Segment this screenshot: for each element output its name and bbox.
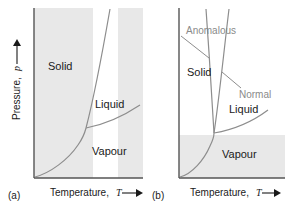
panel-a-x-axis-label-var: T [116,187,123,198]
panel-a-y-axis-label-text: Pressure, [11,77,22,120]
panel-b-annotation-anomalous: Anomalous [186,25,236,36]
phase-diagram-figure: Solid Liquid Vapour Pressure, p Temperat… [0,0,285,220]
panel-a-x-axis-label-text: Temperature, [50,187,109,198]
panel-a-label-liquid: Liquid [95,98,124,110]
panel-b-label-solid: Solid [187,66,211,78]
panel-a-y-axis-label: Pressure, p [11,39,22,120]
panel-a-label-vapour: Vapour [92,145,127,157]
panel-a-shade-left [34,8,93,178]
panel-b-tag: (b) [152,190,164,201]
panel-b-label-liquid: Liquid [229,103,258,115]
panel-a-x-axis-arrow-head [136,189,143,197]
panel-b-leader-anomalous [181,36,209,58]
panel-b-x-axis-label-var: T [256,187,263,198]
panel-a-y-axis-label-var: p [11,66,22,72]
phase-diagram-svg: Solid Liquid Vapour Pressure, p Temperat… [0,0,285,220]
panel-b-x-axis-label-text: Temperature, [190,187,249,198]
panel-a-y-axis-arrow-head [13,39,21,46]
panel-b-x-axis-arrow-head [274,189,281,197]
panel-a-tag: (a) [8,190,20,201]
panel-a-x-axis-label: Temperature, T [50,187,143,198]
panel-a-label-solid: Solid [48,60,72,72]
panel-b-annotation-normal: Normal [239,89,271,100]
panel-b: Anomalous Normal Solid Liquid Vapour Tem… [152,8,285,201]
svg-text:Pressure,: Pressure, [11,77,22,120]
panel-b-leader-normal [222,72,241,88]
panel-a: Solid Liquid Vapour Pressure, p Temperat… [8,8,143,201]
panel-b-label-vapour: Vapour [222,148,257,160]
panel-b-x-axis-label: Temperature, T [190,187,281,198]
